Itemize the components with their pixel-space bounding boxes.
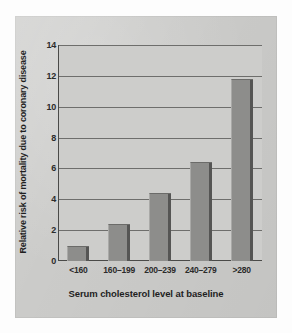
y-tick-label: 10 xyxy=(34,102,56,112)
x-tick-label: >280 xyxy=(221,265,262,275)
y-axis-title: Relative risk of mortality due to corona… xyxy=(18,44,28,260)
y-tick-label: 2 xyxy=(34,225,56,235)
x-tick-label: 240–279 xyxy=(180,265,221,275)
x-tick-label: 160–199 xyxy=(99,265,140,275)
x-tick-label: 200–239 xyxy=(140,265,181,275)
y-tick-label: 8 xyxy=(34,133,56,143)
bar xyxy=(67,246,89,261)
bar-slot xyxy=(180,45,221,261)
y-tick-label: 6 xyxy=(34,163,56,173)
x-tick-label: <160 xyxy=(58,265,99,275)
bar xyxy=(231,79,253,261)
bar-series xyxy=(58,45,262,261)
y-tick-label: 14 xyxy=(34,40,56,50)
y-axis-ticks: 02468101214 xyxy=(30,45,56,261)
bar-slot xyxy=(99,45,140,261)
bar xyxy=(149,193,171,261)
y-tick-label: 0 xyxy=(34,256,56,266)
x-axis-title: Serum cholesterol level at baseline xyxy=(20,288,272,299)
bar-slot xyxy=(140,45,181,261)
plot-wrapper: 02468101214 <160160–199200–239240–279>28… xyxy=(0,0,292,333)
x-axis-ticks: <160160–199200–239240–279>280 xyxy=(58,265,262,281)
y-tick-label: 12 xyxy=(34,71,56,81)
bar-slot xyxy=(58,45,99,261)
figure-root: 02468101214 <160160–199200–239240–279>28… xyxy=(0,0,292,333)
bar-slot xyxy=(221,45,262,261)
bar xyxy=(108,224,130,261)
bar xyxy=(190,162,212,261)
y-tick-label: 4 xyxy=(34,194,56,204)
